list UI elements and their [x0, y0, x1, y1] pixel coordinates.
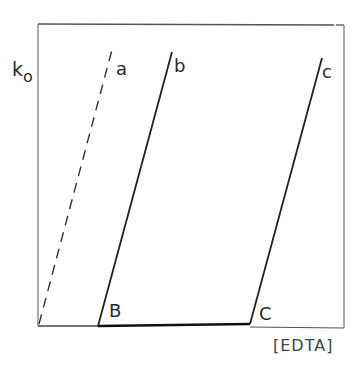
y-axis-label-subscript: o [23, 67, 33, 86]
line-b [98, 52, 172, 326]
line-c [250, 58, 322, 324]
frame-bottom-right [250, 327, 344, 328]
line-a-label: a [116, 60, 127, 78]
line-a [39, 46, 113, 324]
y-axis-label-main: k [12, 58, 23, 80]
frame-top [38, 24, 334, 25]
line-c-label: c [322, 63, 332, 81]
point-b-label: B [109, 302, 121, 320]
line-b-label: b [174, 57, 185, 75]
line-b-to-c [98, 324, 250, 326]
point-c-label: C [259, 305, 272, 323]
y-axis-label: ko [12, 60, 33, 79]
x-axis-label: [EDTA] [273, 338, 333, 354]
